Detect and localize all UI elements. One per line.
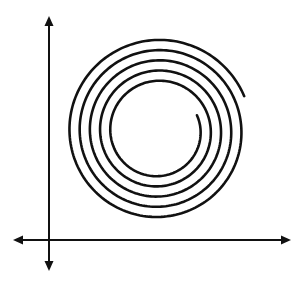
spiral-curve	[69, 40, 244, 217]
arrow-up-icon	[45, 16, 54, 26]
arrow-left-icon	[13, 236, 23, 245]
y-axis	[45, 16, 54, 271]
arrow-right-icon	[281, 236, 291, 245]
x-axis	[13, 236, 291, 245]
spiral-diagram	[0, 0, 308, 287]
arrow-down-icon	[45, 261, 54, 271]
